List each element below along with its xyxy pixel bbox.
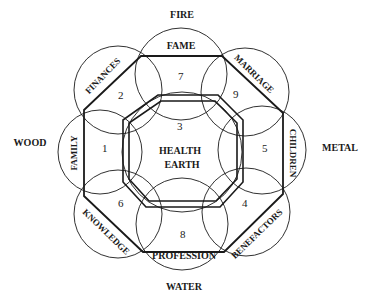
- label-finances: FINANCES: [83, 56, 122, 96]
- element-wood: WOOD: [14, 137, 47, 148]
- number-health: 3: [177, 120, 183, 132]
- number-marriage: 9: [233, 88, 239, 100]
- label-marriage: MARRIAGE: [232, 53, 276, 96]
- number-benefactors: 4: [242, 197, 248, 209]
- label-children: CHILDREN: [288, 129, 298, 178]
- element-water: WATER: [166, 281, 203, 292]
- center-earth: EARTH: [164, 159, 199, 170]
- bagua-diagram: FIRE WOOD METAL WATER FAME MARRIAGE CHIL…: [0, 0, 367, 303]
- label-family: FAMILY: [69, 135, 79, 171]
- label-fame: FAME: [167, 40, 196, 51]
- label-benefactors: BENEFACTORS: [229, 207, 284, 261]
- number-profession: 8: [180, 228, 186, 240]
- label-knowledge: KNOWLEDGE: [81, 207, 132, 257]
- number-finances: 2: [118, 89, 124, 101]
- element-metal: METAL: [322, 142, 358, 153]
- label-profession: PROFESSION: [152, 250, 217, 261]
- number-knowledge: 6: [118, 197, 124, 209]
- element-fire: FIRE: [170, 9, 194, 20]
- center-health: HEALTH: [159, 145, 201, 156]
- number-fame: 7: [178, 70, 184, 82]
- number-children: 5: [262, 142, 268, 154]
- number-family: 1: [102, 142, 108, 154]
